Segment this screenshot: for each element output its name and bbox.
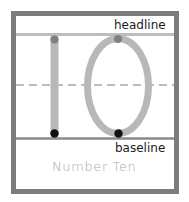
baseline-label: baseline (115, 142, 165, 154)
headline-label: headline (114, 19, 166, 31)
caption-number-ten: Number Ten (52, 160, 136, 173)
digit-zero-start-dot (114, 35, 122, 43)
digit-one-end-dot (50, 129, 58, 137)
digit-one-start-dot (51, 36, 59, 44)
digit-zero-end-dot (114, 129, 122, 137)
